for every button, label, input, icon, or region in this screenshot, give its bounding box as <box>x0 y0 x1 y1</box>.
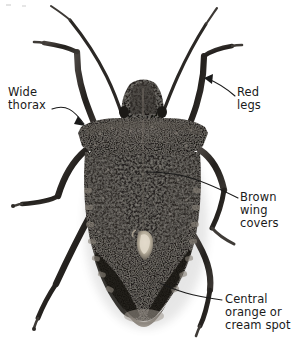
left-hind-claw <box>32 327 36 331</box>
insect-illustration <box>0 0 295 338</box>
label-central-spot-line3: cream spot <box>225 318 291 332</box>
label-central-spot-line2: orange or <box>225 305 282 319</box>
label-red-legs-line2: legs <box>237 98 261 112</box>
label-wide-thorax: Widethorax <box>8 86 46 112</box>
label-wide-thorax-line2: thorax <box>8 98 46 112</box>
label-red-legs: Redlegs <box>237 86 261 112</box>
label-wide-thorax-line1: Wide <box>8 85 37 99</box>
label-brown-wing-line1: Brown <box>240 190 277 204</box>
label-brown-wing-covers: Brownwingcovers <box>240 191 279 231</box>
label-brown-wing-line3: covers <box>240 216 279 230</box>
left-middle-claw <box>11 204 15 208</box>
insect-diagram-figure <box>0 0 295 338</box>
right-front-tarsus <box>232 45 242 46</box>
label-central-spot-line1: Central <box>225 292 268 306</box>
label-red-legs-line1: Red <box>237 85 259 99</box>
label-brown-wing-line2: wing <box>240 203 268 217</box>
left-front-tarsus <box>34 42 44 43</box>
right-eye <box>157 106 167 118</box>
left-eye <box>119 106 129 118</box>
label-central-orange-or-cream-spot: Centralorange orcream spot <box>225 293 291 333</box>
abdomen-tip-pale <box>124 309 164 323</box>
